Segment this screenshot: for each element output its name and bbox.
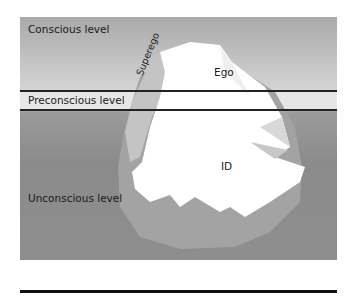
- iceberg-diagram-panel: Conscious level Preconscious level Uncon…: [20, 17, 337, 260]
- unconscious-level-label: Unconscious level: [28, 192, 122, 204]
- conscious-preconscious-divider: [20, 90, 337, 92]
- iceberg-shape: [20, 17, 337, 260]
- preconscious-level-label: Preconscious level: [28, 94, 125, 106]
- bottom-rule: [20, 290, 337, 293]
- ego-label: Ego: [214, 66, 234, 78]
- preconscious-unconscious-divider: [20, 109, 337, 111]
- id-label: ID: [221, 160, 232, 172]
- conscious-level-label: Conscious level: [28, 23, 109, 35]
